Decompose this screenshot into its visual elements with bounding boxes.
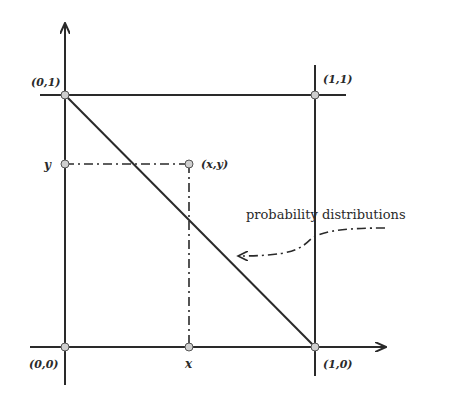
label-top-right: (1,1): [323, 73, 353, 86]
label-bottom-right: (1,0): [323, 358, 353, 371]
marker-xy: [185, 160, 193, 168]
marker-0-0: [61, 343, 69, 351]
marker-x: [185, 343, 193, 351]
marker-1-0: [311, 343, 319, 351]
marker-1-1: [311, 91, 319, 99]
marker-y: [61, 160, 69, 168]
label-bottom-left: (0,0): [29, 358, 59, 371]
unit-square-diagram: (0,1) (1,1) (0,0) (1,0) (x,y) y x probab…: [0, 0, 459, 404]
label-top-left: (0,1): [31, 76, 61, 89]
annotation-arrow: [238, 228, 385, 256]
marker-0-1: [61, 91, 69, 99]
label-x: x: [184, 357, 193, 371]
label-y: y: [43, 158, 52, 172]
annotation-label: probability distributions: [246, 207, 406, 222]
label-point-xy: (x,y): [201, 158, 228, 171]
